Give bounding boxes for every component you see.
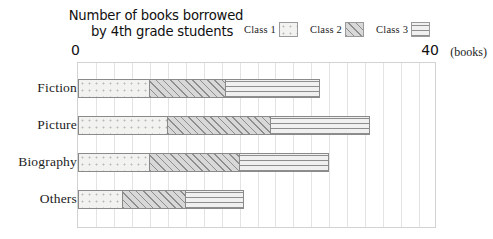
legend-item-label: Class 2 [310,24,342,35]
category-label-fiction: Fiction [5,80,77,96]
category-label-others: Others [5,191,77,207]
gridline [329,63,330,227]
gridline [401,63,402,227]
legend-item-label: Class 3 [376,24,408,35]
gridline [419,63,420,227]
chart-legend: Class 1Class 2Class 3 [244,22,430,37]
axis-min-label: 0 [71,42,80,58]
bar-segment-class-3 [271,116,370,135]
bar-row [78,79,320,98]
bar-segment-class-1 [78,79,150,98]
bar-segment-class-2 [123,190,186,209]
category-label-biography: Biography [5,154,77,170]
bar-segment-class-3 [240,153,330,172]
bar-segment-class-1 [78,116,168,135]
chart-screenshot: Number of books borrowed by 4th grade st… [0,0,493,239]
chart-title: Number of books borrowed by 4th grade st… [66,8,246,40]
gridline [383,63,384,227]
gridline [347,63,348,227]
category-labels: FictionPictureBiographyOthers [0,62,77,228]
category-label-picture: Picture [5,117,77,133]
bar-segment-class-3 [186,190,244,209]
bar-segment-class-3 [226,79,320,98]
bar-row [78,190,244,209]
legend-swatch-class-3 [411,22,430,37]
legend-item-1: Class 1 [244,22,298,37]
bar-row [78,153,329,172]
legend-item-label: Class 1 [244,24,276,35]
bar-segment-class-2 [168,116,271,135]
chart-title-line-2: by 4th grade students [66,24,246,40]
bar-row [78,116,370,135]
legend-swatch-class-2 [345,22,364,37]
bar-segment-class-1 [78,190,123,209]
legend-swatch-class-1 [279,22,298,37]
bar-segment-class-2 [150,79,226,98]
axis-max-label: 40 [421,42,439,58]
axis-unit-label: (books) [450,45,487,60]
gridline [365,63,366,227]
legend-item-2: Class 2 [310,22,364,37]
chart-title-line-1: Number of books borrowed [66,8,246,24]
bar-segment-class-2 [150,153,240,172]
bar-segment-class-1 [78,153,150,172]
legend-item-3: Class 3 [376,22,430,37]
plot-area [77,62,436,228]
